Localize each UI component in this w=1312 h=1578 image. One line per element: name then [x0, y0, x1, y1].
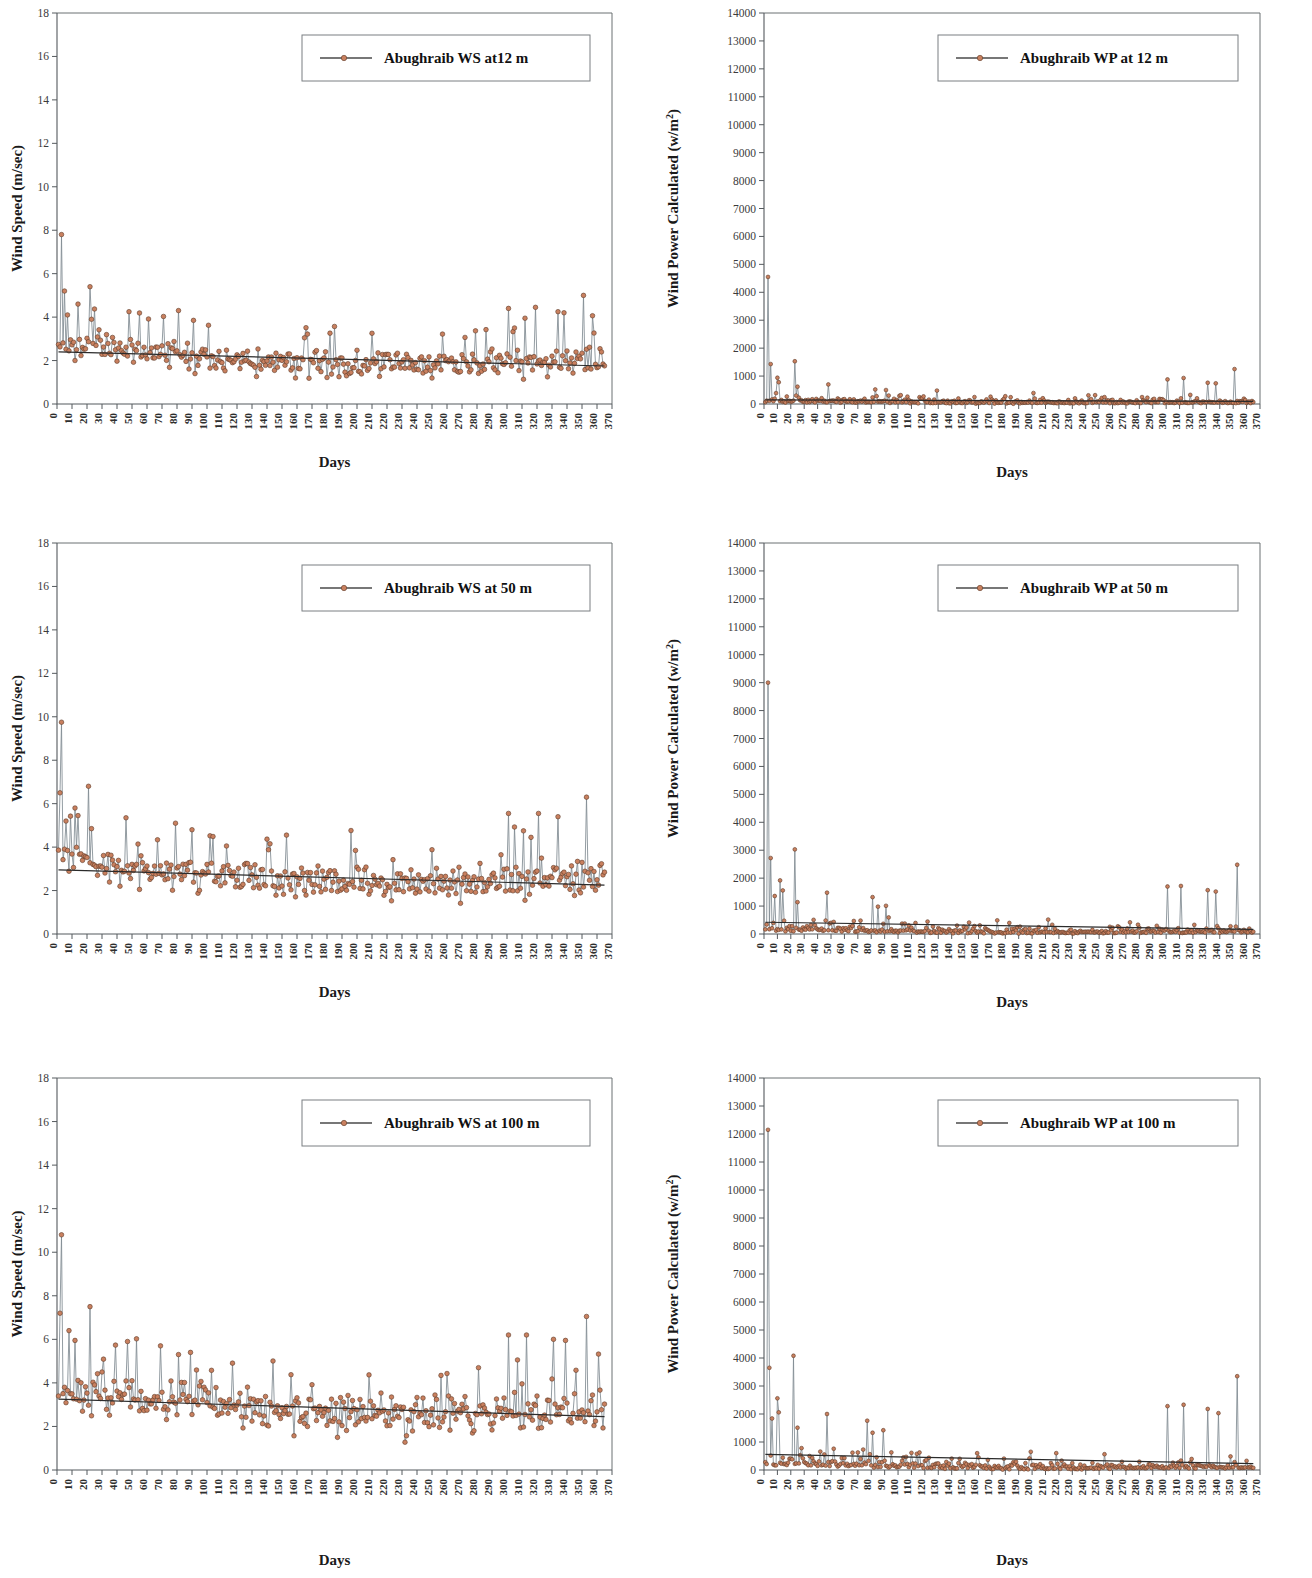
data-point	[769, 362, 773, 366]
x-tick-label: 10	[62, 413, 74, 425]
x-tick-label: 280	[1129, 413, 1141, 430]
data-point	[1206, 381, 1210, 385]
data-point	[71, 865, 76, 870]
data-point	[780, 927, 784, 931]
y-tick-label: 6000	[733, 230, 756, 242]
y-tick-label: 6	[43, 1333, 49, 1345]
data-point	[214, 366, 219, 371]
x-tick-label: 100	[888, 413, 900, 430]
x-tick-label: 140	[942, 943, 954, 960]
data-point	[160, 1390, 165, 1395]
data-point	[313, 883, 318, 888]
svg-text:Wind Power Calculated (w/m2): Wind Power Calculated (w/m2)	[664, 1174, 682, 1373]
data-point	[314, 1418, 319, 1423]
data-point	[1046, 918, 1050, 922]
x-tick-label: 320	[527, 1479, 539, 1496]
x-tick-label: 60	[834, 943, 846, 955]
data-point	[511, 889, 516, 894]
data-point	[88, 1304, 93, 1309]
data-point	[442, 1415, 447, 1420]
data-point	[515, 348, 520, 353]
data-point	[304, 325, 309, 330]
data-point	[284, 360, 289, 365]
data-point	[158, 1344, 163, 1349]
x-tick-label: 160	[968, 413, 980, 430]
data-point	[101, 853, 106, 858]
data-point	[526, 1402, 531, 1407]
y-tick-label: 2	[43, 355, 49, 367]
x-tick-label: 220	[377, 1479, 389, 1496]
x-tick-label: 320	[1183, 943, 1195, 960]
data-point	[185, 868, 190, 873]
data-point	[437, 354, 442, 359]
y-tick-label: 6000	[733, 1296, 756, 1308]
data-point	[796, 385, 800, 389]
y-axis-title: Wind Power Calculated (w/m2)	[664, 109, 682, 308]
x-tick-label: 80	[861, 943, 873, 955]
x-tick-label: 60	[834, 1479, 846, 1491]
data-point	[539, 856, 544, 861]
y-tick-label: 0	[750, 1464, 756, 1476]
data-point	[149, 346, 154, 351]
data-point	[334, 1401, 339, 1406]
data-point	[166, 341, 171, 346]
data-point	[247, 878, 252, 883]
y-tick-label: 10000	[727, 1184, 756, 1196]
data-point	[209, 1368, 214, 1373]
data-point	[589, 1398, 594, 1403]
data-point	[565, 349, 570, 354]
y-axis-title: Wind Speed (m/sec)	[9, 145, 26, 272]
x-tick-label: 280	[467, 943, 479, 960]
x-axis-title: Days	[319, 984, 351, 1000]
data-point	[565, 1401, 570, 1406]
x-tick-label: 60	[137, 413, 149, 425]
data-point	[140, 860, 145, 865]
data-point	[1070, 1461, 1074, 1465]
data-point	[86, 339, 91, 344]
data-point	[64, 1400, 69, 1405]
data-point	[139, 1389, 144, 1394]
data-point	[947, 1462, 951, 1466]
x-tick-label: 190	[1009, 1479, 1021, 1496]
data-point	[263, 363, 268, 368]
y-tick-label: 8000	[733, 705, 756, 717]
x-tick-label: 90	[182, 413, 194, 425]
x-axis: 0102030405060708090100110120130140150160…	[47, 934, 614, 960]
data-point	[478, 861, 483, 866]
data-point	[454, 1417, 459, 1422]
data-point	[434, 1397, 439, 1402]
data-point	[867, 1459, 871, 1463]
data-point	[852, 919, 856, 923]
data-point	[193, 371, 198, 376]
x-tick-label: 90	[875, 1479, 887, 1491]
data-point	[535, 869, 540, 874]
x-tick-label: 110	[901, 943, 913, 959]
data-point	[506, 306, 511, 311]
x-tick-label: 40	[107, 413, 119, 425]
x-tick-label: 200	[1022, 413, 1034, 430]
x-tick-label: 260	[1103, 1479, 1115, 1496]
data-point	[1213, 930, 1217, 934]
y-tick-label: 2	[43, 885, 49, 897]
x-tick-label: 300	[497, 1479, 509, 1496]
data-point	[56, 1394, 61, 1399]
x-tick-label: 340	[1210, 413, 1222, 430]
data-point	[765, 1462, 769, 1466]
data-point	[776, 376, 780, 380]
data-point	[1014, 1460, 1018, 1464]
data-point	[770, 1417, 774, 1421]
data-point	[430, 376, 435, 381]
data-point	[58, 345, 63, 350]
data-point	[560, 353, 565, 358]
data-point	[433, 891, 438, 896]
data-point	[479, 876, 484, 881]
data-point	[155, 837, 160, 842]
data-point	[377, 374, 382, 379]
data-point	[266, 847, 271, 852]
data-point	[418, 890, 423, 895]
x-tick-label: 320	[527, 413, 539, 430]
data-point	[955, 1466, 959, 1470]
data-point	[1103, 395, 1107, 399]
data-point	[532, 876, 537, 881]
data-point	[113, 1343, 118, 1348]
